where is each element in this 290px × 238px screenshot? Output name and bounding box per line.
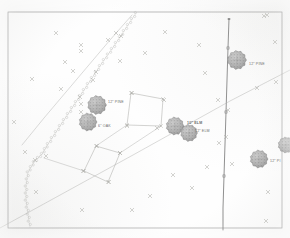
spot-marker-x-icon [23, 150, 27, 154]
tree-label-5: 12" PINE [249, 62, 265, 66]
spot-marker-x-icon [30, 77, 34, 81]
spot-marker-x-icon [79, 102, 83, 106]
line-layer [0, 15, 290, 230]
spot-marker-x-icon [203, 71, 207, 75]
spot-marker-x-icon [224, 135, 228, 139]
survey-plan-graphics [0, 0, 290, 238]
spot-marker-x-icon [12, 120, 16, 124]
spot-marker-x-icon [162, 98, 166, 102]
spot-marker-x-icon [230, 162, 234, 166]
spot-marker-x-icon [148, 194, 152, 198]
tree-symbol [228, 51, 247, 70]
tree-symbol [278, 137, 290, 153]
spot-marker-x-icon [273, 40, 277, 44]
parcel-lower [82, 144, 122, 184]
parcel-tie-upper [96, 125, 127, 146]
spot-marker-x-icon [54, 31, 58, 35]
survey-plan-canvas: 12" PINE6" OAK10" ELM12" ELM12" PINE12" … [0, 0, 290, 238]
spot-marker-x-icon [79, 43, 83, 47]
spot-marker-x-icon [171, 173, 175, 177]
spot-marker-x-icon [262, 14, 266, 18]
spot-marker-x-icon [118, 151, 122, 155]
spot-marker-x-icon [95, 144, 99, 148]
spot-marker-x-icon [163, 30, 167, 34]
spot-marker-x-icon [33, 158, 37, 162]
parcel-tie-mid [120, 126, 161, 153]
tree-label-6: 12" PI [270, 159, 281, 163]
spot-marker-x-icon [264, 219, 268, 223]
tree-label-1: 12" PINE [108, 100, 124, 104]
spot-marker-x-icon [79, 49, 83, 53]
spot-marker-x-icon [79, 110, 83, 114]
tree-symbol [181, 125, 198, 142]
tree-label-2: 6" OAK [98, 124, 111, 128]
spot-marker-x-icon [106, 38, 110, 42]
spot-marker-x-icon [91, 78, 95, 82]
sheet-border [8, 12, 282, 228]
tree-symbol [250, 150, 268, 168]
vegetation-line-branch [24, 152, 43, 228]
spot-marker-x-icon [265, 13, 269, 17]
spot-marker-x-icon [44, 154, 48, 158]
spot-marker-x-icon [119, 34, 123, 38]
spot-marker-x-icon [143, 51, 147, 55]
property-line-vertical [223, 18, 231, 230]
tree-symbol [88, 96, 107, 115]
spot-marker-x-icon [274, 80, 278, 84]
spot-marker-x-icon [130, 91, 134, 95]
parcel-tie-left [44, 158, 84, 171]
spot-marker-x-icon [34, 190, 38, 194]
spot-marker-x-icon [190, 186, 194, 190]
spot-marker-x-icon [266, 190, 270, 194]
spot-marker-x-icon [63, 60, 67, 64]
spot-marker-x-icon [71, 69, 75, 73]
tree-label-3: 10" ELM [187, 121, 202, 125]
road-line-diagonal [0, 70, 290, 228]
spot-marker-x-icon [130, 208, 134, 212]
boundary-line-nw [22, 15, 132, 145]
spot-marker-x-icon [59, 87, 63, 91]
parcel-upper [125, 91, 165, 128]
spot-marker-layer [12, 13, 278, 223]
spot-marker-x-icon [118, 59, 122, 63]
tree-label-4: 12" ELM [195, 129, 210, 133]
spot-marker-x-icon [217, 141, 221, 145]
spot-marker-x-icon [80, 208, 84, 212]
spot-marker-x-icon [197, 43, 201, 47]
spot-marker-x-icon [226, 108, 230, 112]
spot-marker-x-icon [205, 165, 209, 169]
spot-marker-x-icon [216, 98, 220, 102]
tree-symbol [79, 113, 97, 131]
spot-marker-x-icon [114, 31, 118, 35]
